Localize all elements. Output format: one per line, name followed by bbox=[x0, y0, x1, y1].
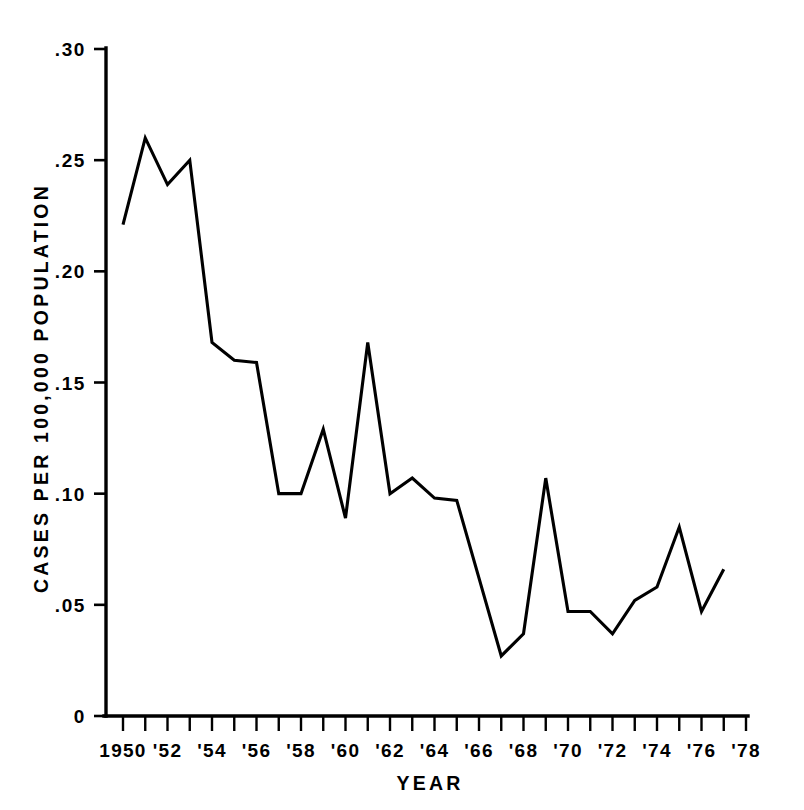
x-tick-label: '64 bbox=[420, 740, 450, 761]
y-tick-label: .15 bbox=[55, 373, 86, 394]
x-tick-label: 1950 bbox=[99, 740, 146, 761]
x-tick-label: '58 bbox=[286, 740, 316, 761]
x-axis-ticks bbox=[123, 716, 746, 731]
x-tick-label: '66 bbox=[464, 740, 494, 761]
x-tick-label: '60 bbox=[331, 740, 361, 761]
x-tick-label: '62 bbox=[375, 740, 405, 761]
x-tick-label: '56 bbox=[242, 740, 272, 761]
y-tick-label: .20 bbox=[55, 261, 86, 282]
y-tick-label: .30 bbox=[55, 39, 86, 60]
x-tick-label: '72 bbox=[598, 740, 628, 761]
x-tick-label: '78 bbox=[731, 740, 761, 761]
y-axis-title: CASES PER 100,000 POPULATION bbox=[30, 183, 52, 593]
y-axis-tick-labels: .30.25.20.15.10.050 bbox=[55, 39, 86, 727]
x-axis-tick-labels: 1950'52'54'56'58'60'62'64'66'68'70'72'74… bbox=[99, 740, 761, 761]
x-tick-label: '76 bbox=[687, 740, 717, 761]
chart-figure: .30.25.20.15.10.050 1950'52'54'56'58'60'… bbox=[0, 0, 804, 810]
y-tick-label: .25 bbox=[55, 150, 86, 171]
y-axis-ticks bbox=[94, 49, 106, 716]
y-tick-label: .10 bbox=[55, 484, 86, 505]
x-tick-label: '54 bbox=[197, 740, 227, 761]
x-axis-title: YEAR bbox=[397, 772, 464, 794]
data-series-line bbox=[123, 138, 724, 656]
x-tick-label: '52 bbox=[153, 740, 183, 761]
x-tick-label: '70 bbox=[553, 740, 583, 761]
x-tick-label: '74 bbox=[642, 740, 672, 761]
x-tick-label: '68 bbox=[509, 740, 539, 761]
y-tick-label: .05 bbox=[55, 595, 86, 616]
y-tick-label: 0 bbox=[74, 706, 86, 727]
line-chart: .30.25.20.15.10.050 1950'52'54'56'58'60'… bbox=[0, 0, 804, 810]
